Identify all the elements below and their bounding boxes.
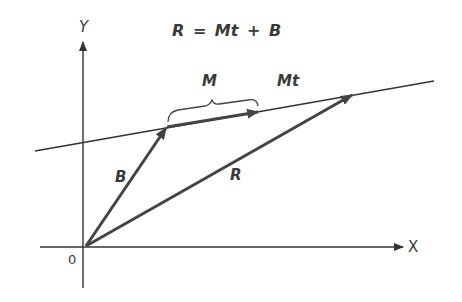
label-Mt: Mt [277, 72, 299, 90]
origin-label: 0 [68, 252, 76, 267]
y-axis-label: Y [79, 18, 88, 36]
label-M: M [202, 72, 217, 90]
label-R: R [230, 166, 242, 184]
x-axis-label: X [408, 238, 418, 256]
vector-B [86, 128, 166, 246]
label-B: B [115, 168, 126, 186]
vector-M [167, 112, 258, 127]
equation: R = Mt + B [172, 21, 281, 40]
vector-line-diagram: Y X 0 R = Mt + B M Mt B R [0, 0, 462, 302]
